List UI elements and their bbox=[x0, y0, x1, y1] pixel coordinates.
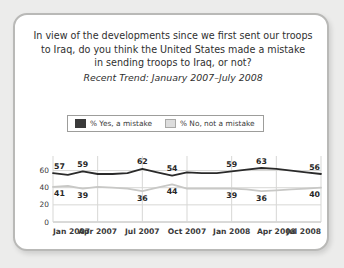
poll-chart-card: In view of the developments since we fir… bbox=[13, 13, 329, 251]
svg-text:40: 40 bbox=[309, 190, 320, 199]
svg-text:56: 56 bbox=[309, 163, 320, 172]
svg-text:36: 36 bbox=[256, 194, 267, 203]
svg-text:39: 39 bbox=[226, 191, 237, 200]
svg-text:59: 59 bbox=[77, 160, 88, 169]
svg-text:41: 41 bbox=[54, 189, 65, 198]
legend-label-no: % No, not a mistake bbox=[180, 119, 255, 128]
svg-text:Jul 2008: Jul 2008 bbox=[285, 227, 321, 236]
legend-label-yes: % Yes, a mistake bbox=[90, 119, 152, 128]
title-line-3: in sending troops to Iraq, or not? bbox=[25, 56, 321, 70]
chart-legend: % Yes, a mistake % No, not a mistake bbox=[67, 115, 264, 132]
legend-item-yes: % Yes, a mistake bbox=[75, 119, 152, 128]
svg-text:Apr 2007: Apr 2007 bbox=[78, 227, 117, 236]
svg-text:54: 54 bbox=[167, 164, 178, 173]
svg-text:57: 57 bbox=[54, 162, 65, 171]
svg-text:39: 39 bbox=[77, 191, 88, 200]
trend-line-chart: 0204060 Jan 2007Apr 2007Jul 2007Oct 2007… bbox=[21, 148, 325, 248]
legend-swatch-icon-yes bbox=[75, 119, 86, 128]
svg-text:36: 36 bbox=[137, 194, 148, 203]
title-line-2: to Iraq, do you think the United States … bbox=[25, 43, 321, 57]
svg-text:40: 40 bbox=[40, 183, 50, 192]
svg-text:63: 63 bbox=[256, 157, 267, 166]
x-axis-ticks: Jan 2007Apr 2007Jul 2007Oct 2007Jan 2008… bbox=[52, 227, 321, 236]
svg-text:44: 44 bbox=[167, 187, 178, 196]
svg-text:62: 62 bbox=[137, 157, 148, 166]
svg-text:Jan 2008: Jan 2008 bbox=[212, 227, 250, 236]
legend-swatch-icon-no bbox=[165, 119, 176, 128]
svg-text:Jul 2007: Jul 2007 bbox=[124, 227, 160, 236]
svg-text:20: 20 bbox=[40, 200, 50, 209]
y-axis-ticks: 0204060 bbox=[40, 166, 50, 226]
page-title: In view of the developments since we fir… bbox=[25, 29, 321, 84]
title-line-1: In view of the developments since we fir… bbox=[25, 29, 321, 43]
svg-text:59: 59 bbox=[226, 160, 237, 169]
svg-text:Oct 2007: Oct 2007 bbox=[168, 227, 206, 236]
legend-item-no: % No, not a mistake bbox=[165, 119, 255, 128]
svg-text:60: 60 bbox=[40, 166, 50, 175]
svg-text:0: 0 bbox=[44, 218, 49, 227]
chart-subtitle: Recent Trend: January 2007–July 2008 bbox=[25, 71, 321, 85]
